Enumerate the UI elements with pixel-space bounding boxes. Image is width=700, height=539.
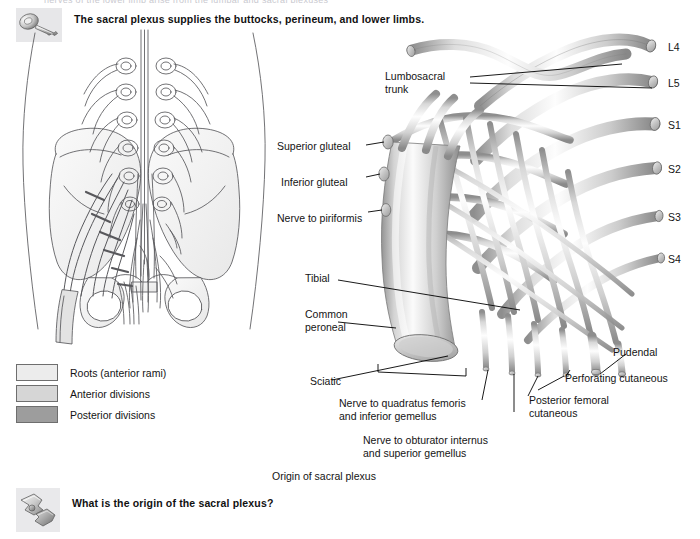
spinal-level-S1: S1 (668, 119, 681, 132)
label-nerve-to-piriformis: Nerve to piriformis (277, 212, 362, 225)
legend-item-posterior-divisions: Posterior divisions (16, 404, 166, 425)
label-common-peroneal: Common peroneal (305, 308, 348, 333)
puzzle-pieces-icon (16, 488, 60, 532)
label-perforating-cutaneous: Perforating cutaneous (565, 372, 668, 385)
label-nerve-to-quadratus-femoris: Nerve to quadratus femoris and inferior … (339, 397, 466, 422)
legend-label-posterior-divisions: Posterior divisions (70, 409, 155, 421)
spinal-level-L5: L5 (668, 77, 680, 90)
label-nerve-to-obturator-internus: Nerve to obturator internus and superior… (363, 434, 488, 459)
legend-item-anterior-divisions: Anterior divisions (16, 383, 166, 404)
label-superior-gluteal: Superior gluteal (277, 140, 351, 153)
spinal-level-L4: L4 (668, 41, 680, 54)
cutoff-top-text: nerves of the lower limb arise from the … (44, 0, 654, 3)
spinal-level-S4: S4 (668, 253, 681, 266)
legend-label-anterior-divisions: Anterior divisions (70, 388, 150, 400)
label-tibial: Tibial (305, 272, 330, 285)
label-sciatic: Sciatic (310, 375, 341, 388)
legend-swatch-anterior-divisions (16, 385, 58, 402)
spinal-level-S2: S2 (668, 163, 681, 176)
question-banner-text: What is the origin of the sacral plexus? (72, 497, 273, 509)
posterior-torso-pelvis-illustration (0, 24, 290, 354)
figure-caption: Origin of sacral plexus (272, 470, 376, 482)
legend-swatch-roots (16, 364, 58, 381)
legend: Roots (anterior rami) Anterior divisions… (16, 362, 166, 425)
legend-label-roots: Roots (anterior rami) (70, 367, 166, 379)
spinal-level-S3: S3 (668, 211, 681, 224)
label-inferior-gluteal: Inferior gluteal (281, 176, 348, 189)
question-banner: What is the origin of the sacral plexus? (16, 488, 273, 532)
legend-swatch-posterior-divisions (16, 406, 58, 423)
label-lumbosacral-trunk: Lumbosacral trunk (385, 70, 445, 95)
anatomy-figure-page: nerves of the lower limb arise from the … (0, 0, 700, 539)
legend-item-roots: Roots (anterior rami) (16, 362, 166, 383)
label-pudendal: Pudendal (613, 346, 657, 359)
label-posterior-femoral-cutaneous: Posterior femoral cutaneous (529, 394, 609, 419)
